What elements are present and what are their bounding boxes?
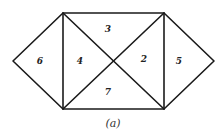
figure-caption: (a) xyxy=(105,117,120,130)
region-label-2: 2 xyxy=(140,54,147,64)
region-label-3: 3 xyxy=(105,24,111,34)
triangulated-hexagon-diagram: 6 4 3 2 5 7 (a) xyxy=(0,0,223,138)
region-label-4: 4 xyxy=(77,56,83,66)
region-label-7: 7 xyxy=(105,87,112,97)
region-label-6: 6 xyxy=(37,56,44,66)
region-label-5: 5 xyxy=(176,56,182,66)
